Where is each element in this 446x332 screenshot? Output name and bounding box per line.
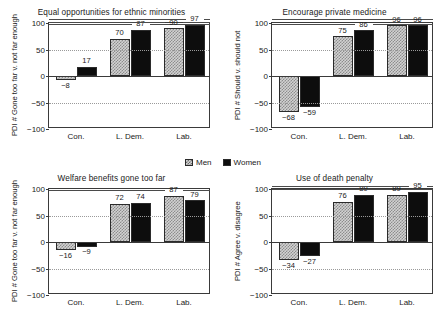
x-tick-label: Con.: [291, 132, 308, 141]
value-leader-line: [49, 190, 165, 191]
y-tick-mark: [46, 103, 49, 104]
x-tick-label: Lab.: [399, 298, 415, 307]
y-tick-label: 0: [41, 238, 45, 247]
bar-women-2: [408, 192, 428, 242]
y-tick-label: −50: [31, 264, 45, 273]
value-leader-line: [272, 19, 409, 20]
bar-women-2: [408, 25, 428, 76]
bar-value-label: 76: [338, 191, 346, 200]
y-tick-label: −50: [31, 98, 45, 107]
y-tick-label: −50: [254, 98, 268, 107]
y-tick-mark: [46, 50, 49, 51]
bar-value-label: 75: [338, 26, 346, 35]
panel-private-medicine: Encourage private medicine PDI # Should …: [223, 0, 446, 166]
y-tick-mark: [46, 216, 49, 217]
gridline: [272, 50, 432, 51]
bar-women-2: [185, 200, 205, 242]
value-leader-line: [49, 24, 132, 25]
y-tick-mark: [269, 129, 272, 130]
x-tick-label: Lab.: [176, 132, 192, 141]
bar-value-label: −9: [82, 247, 91, 256]
x-tick-label: Con.: [68, 132, 85, 141]
bars-layer: −34−2776898995: [272, 189, 432, 293]
y-tick-label: −100: [250, 291, 268, 300]
bar-women-1: [131, 30, 151, 76]
x-tick-label: L. Dem.: [116, 132, 144, 141]
bar-value-label: 87: [136, 19, 144, 28]
bar-men-1: [110, 204, 130, 242]
bar-value-label: 97: [190, 14, 198, 23]
bar-women-1: [131, 203, 151, 242]
x-tick-label: Lab.: [176, 298, 192, 307]
y-tick-mark: [46, 269, 49, 270]
y-tick-mark: [269, 216, 272, 217]
bar-value-label: 17: [82, 56, 90, 65]
y-tick-label: 0: [41, 72, 45, 81]
gridline: [272, 269, 432, 270]
bars-layer: −16−972748779: [49, 189, 209, 293]
legend-label-women: Women: [234, 158, 261, 167]
gridline: [49, 216, 209, 217]
y-tick-mark: [269, 295, 272, 296]
panel-welfare-benefits: Welfare benefits gone too far PDI # Gone…: [0, 166, 223, 332]
plot-area: −81770879097 100500−50−100Con.L. Dem.Lab…: [48, 22, 210, 128]
y-tick-label: −100: [27, 291, 45, 300]
value-leader-line: [272, 189, 388, 190]
bar-men-1: [333, 36, 353, 76]
value-leader-line: [272, 186, 409, 187]
bar-women-0: [77, 67, 97, 76]
y-tick-mark: [269, 50, 272, 51]
legend-item-men: Men: [185, 158, 212, 167]
gridline: [272, 103, 432, 104]
bar-men-0: [279, 242, 299, 260]
bar-value-label: 95: [413, 181, 421, 190]
bar-women-1: [354, 195, 374, 242]
y-tick-mark: [46, 242, 49, 243]
bar-women-1: [354, 30, 374, 76]
bar-men-0: [56, 242, 76, 250]
x-tick-label: L. Dem.: [339, 132, 367, 141]
bar-men-2: [387, 25, 407, 76]
panel-equal-opportunities: Equal opportunities for ethnic minoritie…: [0, 0, 223, 166]
gridline: [272, 216, 432, 217]
y-tick-label: 0: [264, 72, 268, 81]
chart-grid: Equal opportunities for ethnic minoritie…: [0, 0, 446, 332]
legend-swatch-women-icon: [223, 159, 231, 166]
zero-line: [49, 242, 209, 243]
gridline: [49, 103, 209, 104]
y-tick-label: 50: [259, 45, 268, 54]
bar-men-2: [387, 195, 407, 242]
y-axis-label: PDI # Agree v. disagree: [233, 201, 242, 281]
panel-title: Welfare benefits gone too far: [0, 174, 223, 183]
value-leader-line: [49, 19, 186, 20]
bar-value-label: 70: [115, 28, 123, 37]
x-tick-label: Con.: [291, 298, 308, 307]
zero-line: [272, 76, 432, 77]
bar-value-label: −27: [303, 257, 316, 266]
bars-layer: −81770879097: [49, 23, 209, 127]
y-tick-label: 50: [36, 211, 45, 220]
y-tick-mark: [269, 269, 272, 270]
bars-layer: −68−5975869696: [272, 23, 432, 127]
bar-value-label: 74: [136, 192, 144, 201]
legend: Men Women: [0, 158, 446, 167]
bar-value-label: 72: [115, 193, 123, 202]
y-tick-mark: [46, 189, 49, 190]
y-tick-mark: [269, 242, 272, 243]
value-leader-line: [427, 186, 434, 187]
gridline: [49, 269, 209, 270]
y-tick-mark: [46, 129, 49, 130]
x-tick-label: Lab.: [399, 132, 415, 141]
y-tick-label: 50: [259, 211, 268, 220]
value-leader-line: [49, 22, 165, 23]
bar-men-2: [164, 196, 184, 242]
bar-value-label: 86: [359, 20, 367, 29]
y-tick-label: −50: [254, 264, 268, 273]
legend-swatch-men-icon: [185, 159, 193, 166]
plot-area: −68−5975869696 100500−50−100Con.L. Dem.L…: [271, 22, 433, 128]
bar-men-1: [333, 202, 353, 242]
value-leader-line: [204, 19, 211, 20]
bar-men-2: [164, 28, 184, 76]
x-tick-label: L. Dem.: [339, 298, 367, 307]
y-tick-mark: [269, 76, 272, 77]
